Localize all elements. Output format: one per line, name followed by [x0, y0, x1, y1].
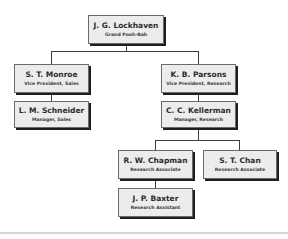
connector-kellerman-down — [198, 128, 199, 140]
node-schneider: L. M. Schneider Manager, Sales — [14, 101, 89, 128]
connector-parsons-kellerman — [198, 93, 199, 101]
node-title: Manager, Sales — [32, 116, 71, 123]
node-kellerman: C. C. Kellerman Manager, Research — [161, 101, 236, 128]
node-title: Research Associate — [215, 166, 265, 173]
org-chart: J. G. Lockhaven Grand Pooh-Bah S. T. Mon… — [0, 0, 288, 239]
node-name: J. P. Baxter — [133, 194, 179, 204]
connector-top-horizontal — [51, 51, 199, 52]
connector-chapman-baxter — [155, 179, 156, 188]
node-chapman: R. W. Chapman Research Associate — [118, 150, 193, 179]
node-name: C. C. Kellerman — [166, 106, 231, 116]
connector-to-parsons — [198, 51, 199, 64]
node-title: Vice President, Research — [166, 80, 231, 87]
node-name: S. T. Monroe — [25, 70, 77, 80]
node-name: R. W. Chapman — [124, 156, 188, 166]
node-name: J. G. Lockhaven — [94, 21, 159, 31]
connector-monroe-schneider — [51, 93, 52, 101]
node-name: L. M. Schneider — [19, 106, 85, 116]
node-title: Research Assistant — [131, 204, 181, 211]
node-lockhaven: J. G. Lockhaven Grand Pooh-Bah — [88, 15, 164, 44]
node-baxter: J. P. Baxter Research Assistant — [118, 188, 193, 217]
connector-research-horizontal — [155, 140, 240, 141]
node-chan: S. T. Chan Research Associate — [203, 150, 277, 179]
node-title: Manager, Research — [174, 116, 223, 123]
bottom-divider — [0, 232, 288, 234]
connector-to-chan — [239, 140, 240, 150]
connector-to-monroe — [51, 51, 52, 64]
node-name: K. B. Parsons — [171, 70, 227, 80]
node-monroe: S. T. Monroe Vice President, Sales — [14, 64, 89, 93]
node-title: Research Associate — [130, 166, 180, 173]
node-title: Vice President, Sales — [24, 80, 79, 87]
node-parsons: K. B. Parsons Vice President, Research — [161, 64, 236, 93]
connector-to-chapman — [155, 140, 156, 150]
node-name: S. T. Chan — [219, 156, 261, 166]
node-title: Grand Pooh-Bah — [105, 31, 147, 38]
connector-lockhaven-down — [126, 44, 127, 51]
